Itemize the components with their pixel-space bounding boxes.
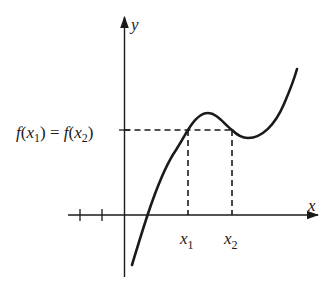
x1-label: x1 [179, 229, 194, 252]
x2-label: x2 [223, 229, 238, 252]
y-axis-label: y [129, 15, 139, 34]
x-axis-label: x [307, 196, 316, 215]
subscript: 1 [188, 238, 194, 252]
function-diagram: y x f(x1) = f(x2) x1 x2 [0, 0, 330, 293]
paren-close: ) [88, 123, 94, 142]
level-label: f(x1) = f(x2) [16, 123, 93, 145]
function-curve [132, 69, 297, 265]
subscript: 2 [232, 238, 238, 252]
diagram-canvas: y x f(x1) = f(x2) x1 x2 [0, 0, 330, 293]
equals-sign: = [46, 123, 64, 142]
